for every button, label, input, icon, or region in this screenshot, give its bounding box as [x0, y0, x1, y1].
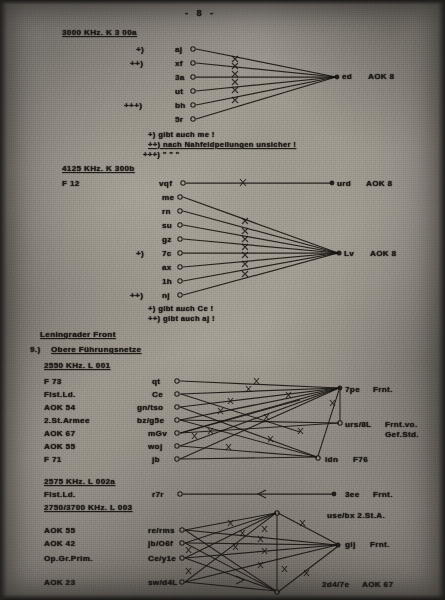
network-diagrams [0, 0, 445, 600]
diagram-k300a [191, 47, 340, 121]
diagram-k300b [178, 179, 342, 297]
diagram-l003 [180, 511, 341, 594]
diagram-l002a [178, 490, 337, 498]
page-content: - 8 - 3000 KHz. K 3 00a +) aj ++) xf 3a … [0, 0, 445, 600]
diagram-l001 [175, 378, 343, 461]
document-page: - 8 - 3000 KHz. K 3 00a +) aj ++) xf 3a … [0, 0, 445, 600]
